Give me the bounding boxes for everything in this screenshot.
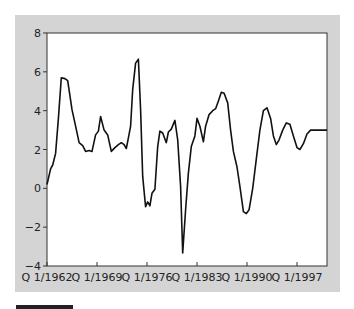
y-tick-label: 6 — [34, 66, 41, 79]
x-tick-label: Q 1/1990 — [222, 271, 273, 284]
footer-bar — [16, 305, 73, 309]
x-tick-label: Q 1/1997 — [272, 271, 323, 284]
x-tick-label: Q 1/1976 — [122, 271, 173, 284]
x-tick-label: Q 1/1969 — [72, 271, 123, 284]
plot-area — [47, 33, 327, 266]
y-axis: −4−202468 — [25, 27, 47, 273]
x-tick-label: Q 1/1962 — [22, 271, 73, 284]
y-tick-label: 4 — [34, 105, 41, 118]
y-tick-label: 2 — [34, 144, 41, 157]
y-tick-label: −2 — [25, 221, 41, 234]
y-tick-label: 8 — [34, 27, 41, 40]
y-tick-label: 0 — [34, 182, 41, 195]
x-tick-label: Q 1/1983 — [172, 271, 223, 284]
line-chart: −4−202468 Q 1/1962Q 1/1969Q 1/1976Q 1/19… — [0, 0, 354, 309]
